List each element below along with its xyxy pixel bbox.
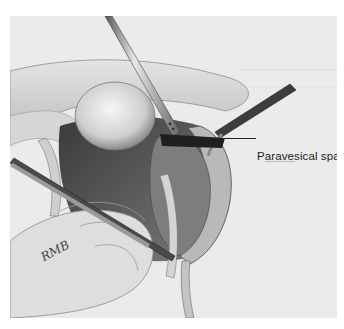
- caption-rule: [265, 161, 295, 162]
- illustration-panel: Paravesical space RMB: [10, 16, 337, 318]
- surgical-illustration: [10, 16, 337, 318]
- callout-leader-line: [180, 138, 256, 139]
